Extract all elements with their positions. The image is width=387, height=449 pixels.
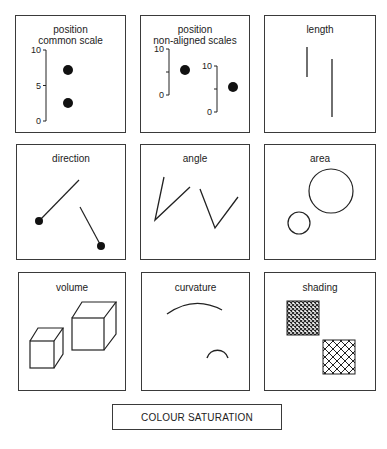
angle-graphic bbox=[141, 145, 251, 261]
large-circle bbox=[309, 169, 353, 213]
panel-direction: direction bbox=[16, 144, 126, 260]
direction-dot bbox=[97, 242, 105, 250]
data-dot bbox=[63, 98, 73, 108]
direction-graphic bbox=[17, 145, 127, 261]
panel-position-non-aligned-scales: position non-aligned scales 10 0 10 0 bbox=[140, 15, 250, 133]
panel-area: area bbox=[264, 144, 376, 260]
data-dot bbox=[228, 82, 238, 92]
colour-saturation-label: COLOUR SATURATION bbox=[112, 404, 282, 430]
tick-label: 10 bbox=[154, 44, 164, 54]
data-dot bbox=[180, 65, 190, 75]
position-common-scale-graphic: 10 5 0 bbox=[16, 16, 127, 134]
small-cube bbox=[30, 328, 63, 368]
volume-graphic bbox=[19, 273, 127, 392]
position-non-aligned-graphic: 10 0 10 0 bbox=[141, 16, 251, 134]
large-cube bbox=[72, 302, 116, 350]
light-shaded-square bbox=[323, 340, 355, 374]
panel-curvature: curvature bbox=[141, 272, 250, 391]
tick-label: 5 bbox=[36, 81, 41, 91]
panel-volume: volume bbox=[18, 272, 126, 391]
data-dot bbox=[63, 65, 73, 75]
shading-graphic bbox=[265, 273, 377, 392]
length-graphic bbox=[265, 16, 377, 134]
curvature-graphic bbox=[142, 273, 251, 392]
panel-length: length bbox=[264, 15, 376, 133]
tick-label: 0 bbox=[36, 116, 41, 126]
dense-shaded-square bbox=[287, 301, 319, 335]
gentle-arc bbox=[167, 303, 222, 314]
tight-arc bbox=[207, 350, 228, 358]
panel-angle: angle bbox=[140, 144, 250, 260]
tick-label: 10 bbox=[31, 45, 41, 55]
area-graphic bbox=[265, 145, 377, 261]
panel-position-common-scale: position common scale 10 5 0 bbox=[15, 15, 126, 133]
tick-label: 0 bbox=[159, 90, 164, 100]
panel-shading: shading bbox=[264, 272, 376, 391]
small-circle bbox=[288, 212, 310, 234]
tick-label: 10 bbox=[202, 61, 212, 71]
direction-dot bbox=[35, 217, 43, 225]
tick-label: 0 bbox=[207, 107, 212, 117]
